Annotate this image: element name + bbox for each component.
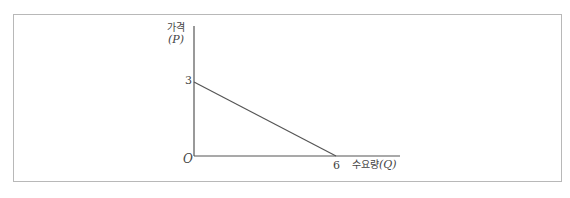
y-axis-label: 가격 (P) bbox=[162, 22, 190, 46]
x-axis-label-text: 수요량 bbox=[352, 159, 379, 170]
x-tick-6: 6 bbox=[333, 160, 340, 172]
x-axis-label-variable: (Q) bbox=[379, 158, 397, 171]
chart-plot bbox=[0, 0, 570, 198]
origin-label: O bbox=[183, 153, 193, 165]
y-tick-3: 3 bbox=[185, 75, 192, 87]
x-axis-label: 수요량(Q) bbox=[352, 159, 397, 171]
y-axis-label-variable: (P) bbox=[162, 34, 190, 46]
demand-line bbox=[194, 82, 336, 156]
